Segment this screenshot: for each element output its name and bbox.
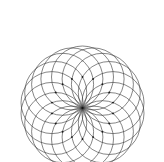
circle-center-dot — [108, 92, 110, 94]
circle-center-dot — [51, 102, 53, 104]
circle-center-dot — [112, 102, 114, 104]
circle-center-dot — [92, 136, 94, 138]
rose-circle-mandala — [0, 0, 164, 162]
circle-center-dot — [62, 83, 64, 85]
circle-center-dot — [71, 136, 73, 138]
circle-center-dot — [82, 138, 84, 140]
circle-center-dot — [71, 78, 73, 80]
circle-center-dot — [101, 131, 103, 133]
figure-background — [0, 0, 164, 162]
circle-center-dot — [82, 76, 84, 78]
circle-center-dot — [112, 112, 114, 114]
circle-center-dot — [55, 92, 57, 94]
circle-center-dot — [62, 131, 64, 133]
circle-center-dot — [51, 112, 53, 114]
mandala-figure-container — [0, 0, 164, 162]
convergence-point-dot — [81, 107, 83, 109]
circle-center-dot — [92, 78, 94, 80]
circle-center-dot — [101, 83, 103, 85]
circle-center-dot — [108, 123, 110, 125]
circle-center-dot — [55, 123, 57, 125]
